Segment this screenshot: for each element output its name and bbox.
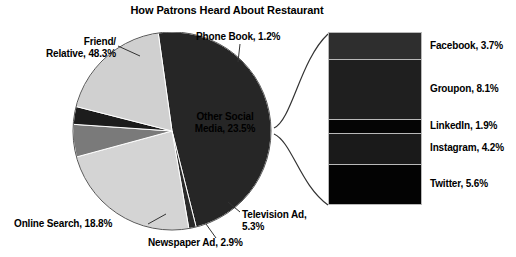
chart-title: How Patrons Heard About Restaurant xyxy=(112,4,342,16)
bar-label-facebook: Facebook, 3.7% xyxy=(430,40,503,51)
bar-label-linkedin: LinkedIn, 1.9% xyxy=(430,120,497,131)
pie-label-other-social-media: Other Social Media, 23.5% xyxy=(188,111,262,135)
chart-container: How Patrons Heard About Restaurant Frien… xyxy=(0,0,516,257)
pie-label-newspaper-ad: Newspaper Ad, 2.9% xyxy=(148,237,243,249)
pie-label-phone-book: Phone Book, 1.2% xyxy=(196,31,280,43)
bar-label-groupon: Groupon, 8.1% xyxy=(430,83,499,94)
stacked-bar-other-social-media xyxy=(328,32,422,205)
connector-bottom xyxy=(274,134,328,205)
bar-segment-twitter[interactable] xyxy=(328,164,422,205)
pie-label-friend-relative: Friend/ Relative, 48.3% xyxy=(24,36,116,60)
bar-segment-linkedin[interactable] xyxy=(328,119,422,133)
bar-label-instagram: Instagram, 4.2% xyxy=(430,142,504,153)
pie-label-friend-line2: Relative, 48.3% xyxy=(46,48,116,59)
pie-label-friend-line1: Friend/ xyxy=(84,36,116,47)
bar-segment-groupon[interactable] xyxy=(328,59,422,119)
bar-segment-instagram[interactable] xyxy=(328,133,422,164)
connector-top xyxy=(274,34,328,128)
bar-label-twitter: Twitter, 5.6% xyxy=(430,178,488,189)
pie-label-television-ad: Television Ad, 5.3% xyxy=(242,209,312,233)
bar-segment-facebook[interactable] xyxy=(328,32,422,59)
pie-label-online-search: Online Search, 18.8% xyxy=(14,218,112,230)
